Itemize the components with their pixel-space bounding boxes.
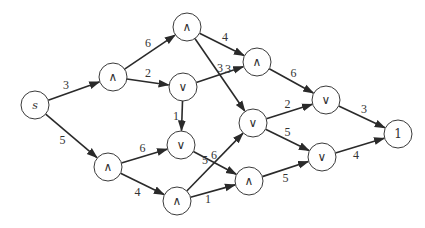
node-a5: ∧: [163, 187, 191, 215]
graph-diagram: 3562433162536465154 s∧∧∨∧∨∨1∧∨∧∧∨: [0, 0, 425, 228]
edge-o1-o4: [181, 101, 182, 131]
node-label: ∧: [245, 174, 254, 188]
edge-weight-label: 3: [361, 102, 367, 116]
node-a3: ∧: [243, 48, 271, 76]
node-label: ∧: [183, 20, 192, 34]
node-label: ∧: [253, 55, 262, 69]
node-a6: ∧: [235, 167, 263, 195]
edge-arrow: [46, 114, 97, 158]
node-a1: ∧: [99, 63, 127, 91]
node-label: ∧: [173, 194, 182, 208]
node-a2: ∧: [173, 13, 201, 41]
node-o4: ∨: [167, 131, 195, 159]
node-label: s: [32, 99, 38, 112]
edge-arrow: [48, 82, 99, 100]
edge-weight-label: 3: [63, 78, 69, 92]
node-label: ∨: [179, 80, 188, 94]
edge-arrow: [121, 173, 164, 194]
edge-o5-t: [335, 138, 384, 153]
node-s: s: [21, 91, 49, 119]
node-o5: ∨: [308, 143, 336, 171]
edge-weight-label: 1: [205, 192, 211, 206]
edge-weight-label: 4: [353, 148, 359, 162]
node-label: ∨: [318, 150, 327, 164]
edge-weight-label: 2: [145, 66, 151, 80]
node-label: ∨: [249, 116, 258, 130]
edge-weight-label: 4: [222, 30, 228, 44]
edge-weight-label: 2: [285, 97, 291, 111]
edge-weight-label: 6: [291, 66, 297, 80]
edge-weight-label: 5: [285, 125, 291, 139]
node-a4: ∧: [94, 153, 122, 181]
node-o1: ∨: [169, 73, 197, 101]
node-o2: ∨: [239, 109, 267, 137]
edge-s-a1: [48, 82, 99, 100]
node-label: ∧: [104, 160, 113, 174]
edge-weight-label: 3: [217, 61, 223, 75]
edge-weight-label: 6: [211, 148, 217, 162]
edge-weight-label: 1: [173, 109, 179, 123]
edge-weight-label: 6: [145, 36, 151, 50]
edge-weight-label: 4: [135, 185, 141, 199]
node-label: ∧: [109, 70, 118, 84]
edge-s-a4: [46, 114, 97, 158]
nodes-layer: s∧∧∨∧∨∨1∧∨∧∧∨: [21, 13, 412, 215]
edge-arrow: [190, 185, 235, 197]
node-label: 1: [394, 127, 402, 141]
edge-weight-label: 6: [140, 141, 146, 155]
edge-weight-label: 5: [283, 171, 289, 185]
edge-arrow: [181, 101, 182, 131]
edge-a5-a6: [190, 185, 235, 197]
edge-weight-label: 5: [60, 133, 66, 147]
edge-a4-a5: [121, 173, 164, 194]
edge-weight-label: 3: [225, 62, 231, 76]
edge-weight-label: 5: [202, 153, 208, 167]
edge-arrow: [335, 138, 384, 153]
node-label: ∨: [177, 138, 186, 152]
node-label: ∨: [322, 93, 331, 107]
node-t: 1: [384, 120, 412, 148]
node-o3: ∨: [312, 86, 340, 114]
